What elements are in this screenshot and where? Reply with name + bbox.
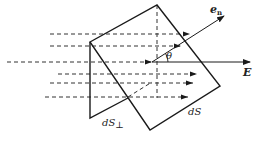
normal-vector bbox=[152, 16, 224, 62]
hidden-edge bbox=[128, 82, 152, 97]
normal-label: en bbox=[210, 3, 222, 17]
perp-area-label: dS⊥ bbox=[102, 117, 124, 130]
field-arrowheads bbox=[145, 32, 197, 100]
area-label: dS bbox=[188, 106, 201, 117]
angle-label: θ bbox=[166, 50, 172, 61]
perpendicular-surface bbox=[90, 42, 128, 118]
field-label: E bbox=[242, 66, 252, 79]
flux-diagram: en E θ dS⊥ dS bbox=[0, 0, 260, 144]
